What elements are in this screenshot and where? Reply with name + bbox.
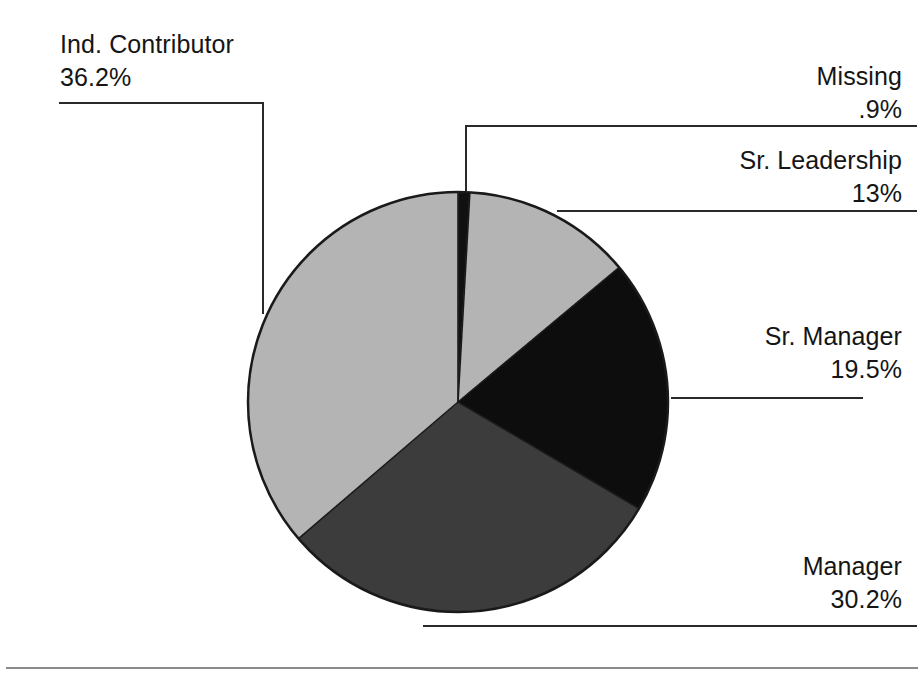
- slice-label-manager-value: 30.2%: [803, 583, 902, 616]
- slice-label-ind-contributor-name: Ind. Contributor: [60, 28, 234, 61]
- pie-slice-group: [248, 192, 668, 612]
- pie-chart-figure: Ind. Contributor 36.2% Missing .9% Sr. L…: [0, 0, 924, 678]
- slice-label-sr-leadership-name: Sr. Leadership: [739, 144, 902, 177]
- slice-label-sr-leadership: Sr. Leadership 13%: [739, 144, 902, 209]
- slice-label-manager-name: Manager: [803, 550, 902, 583]
- slice-label-missing-name: Missing: [817, 60, 902, 93]
- leader-line-ind-contributor: [60, 103, 263, 313]
- slice-label-missing: Missing .9%: [817, 60, 902, 125]
- slice-label-manager: Manager 30.2%: [803, 550, 902, 615]
- slice-label-sr-leadership-value: 13%: [739, 177, 902, 210]
- slice-label-sr-manager-value: 19.5%: [765, 353, 902, 386]
- slice-label-sr-manager: Sr. Manager 19.5%: [765, 320, 902, 385]
- slice-label-ind-contributor-value: 36.2%: [60, 61, 234, 94]
- slice-label-missing-value: .9%: [817, 93, 902, 126]
- slice-label-ind-contributor: Ind. Contributor 36.2%: [60, 28, 234, 93]
- slice-label-sr-manager-name: Sr. Manager: [765, 320, 902, 353]
